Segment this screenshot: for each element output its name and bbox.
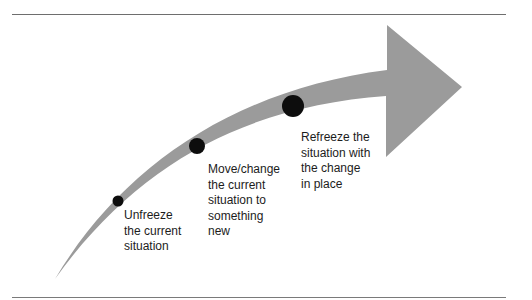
move-label: Move/change the current situation to som… (208, 162, 280, 240)
unfreeze-dot (113, 196, 124, 207)
refreeze-label: Refreeze the situation with the change i… (301, 130, 370, 192)
curved-arrow-shape (55, 25, 462, 279)
unfreeze-label: Unfreeze the current situation (124, 208, 181, 255)
change-arrow-diagram (0, 0, 532, 300)
move-dot (189, 138, 205, 154)
bottom-rule (12, 297, 506, 298)
refreeze-dot (282, 95, 304, 117)
